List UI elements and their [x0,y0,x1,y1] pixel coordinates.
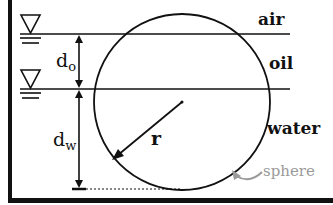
left-wall [8,0,12,203]
radius-arrow-icon [112,102,182,160]
d-o-main: d [56,49,68,71]
d-w-subscript: w [65,138,76,153]
oil-water-surface-symbol-icon [20,70,41,98]
water-label: water [266,118,321,138]
d-o-subscript: o [68,59,76,74]
air-oil-surface-symbol-icon [20,15,41,43]
air-label: air [258,9,285,29]
radius-label: r [151,127,162,149]
d-w-label: dw [53,128,76,153]
sphere-in-layers-diagram: air oil water sphere do dw r [0,0,333,205]
sphere-label: sphere [263,162,315,180]
d-o-dimension-arrow-icon [75,35,83,88]
d-w-main: d [53,128,65,150]
d-o-label: do [56,49,76,74]
bottom-wall [8,198,333,203]
oil-label: oil [269,53,294,73]
